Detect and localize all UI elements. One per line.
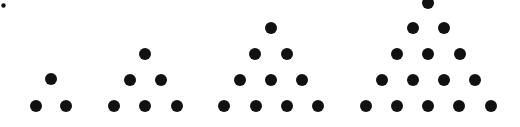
dot — [438, 74, 450, 86]
dot — [281, 100, 293, 112]
dot — [422, 100, 434, 112]
dot — [139, 100, 151, 112]
dot — [265, 74, 277, 86]
dot — [296, 74, 308, 86]
dot — [45, 73, 57, 85]
dot — [438, 22, 450, 34]
dot — [469, 74, 481, 86]
dot — [312, 100, 324, 112]
dot — [407, 74, 419, 86]
dot — [155, 74, 167, 86]
dot — [139, 48, 151, 60]
dot — [391, 48, 403, 60]
dot — [391, 100, 403, 112]
dot — [360, 100, 372, 112]
dot-group-triangle-3 — [30, 73, 72, 112]
dot-groups — [30, 0, 497, 112]
dot — [376, 74, 388, 86]
dot — [108, 100, 120, 112]
dot — [485, 100, 497, 112]
dot — [30, 100, 42, 112]
dot — [124, 74, 136, 86]
dot — [250, 100, 262, 112]
dot — [407, 22, 419, 34]
dot-group-triangle-6 — [108, 48, 183, 112]
dot — [422, 0, 434, 9]
dot-group-triangle-10 — [218, 22, 324, 112]
dot — [234, 74, 246, 86]
dot-group-triangle-15 — [360, 0, 497, 112]
dot — [265, 22, 277, 34]
small-dot-marker — [1, 3, 5, 7]
dot — [454, 48, 466, 60]
dot — [249, 48, 261, 60]
dot — [422, 48, 434, 60]
triangular-numbers-diagram — [0, 0, 520, 127]
dot — [60, 100, 72, 112]
dot — [453, 100, 465, 112]
dot — [171, 100, 183, 112]
dot — [218, 100, 230, 112]
dot — [281, 48, 293, 60]
